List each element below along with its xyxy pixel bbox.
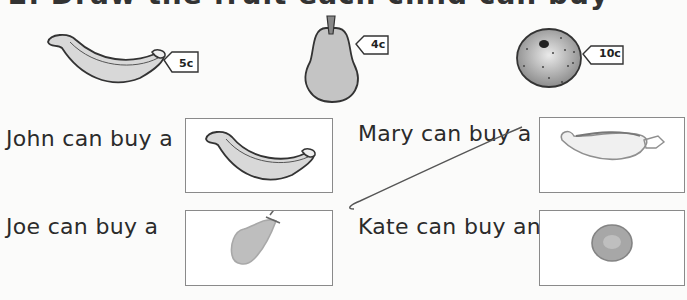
- pear-item: 4c: [300, 12, 390, 104]
- answer-box-kate[interactable]: [539, 210, 685, 286]
- answer-box-mary[interactable]: [539, 117, 685, 193]
- banana-answer-icon: [186, 119, 331, 191]
- banana-price-tag: 5c: [179, 57, 193, 70]
- question-kate: Kate can buy an: [358, 214, 541, 239]
- pencil-stroke-mark: [340, 125, 530, 215]
- answer-box-john[interactable]: [185, 118, 333, 193]
- pear-icon: [300, 12, 390, 104]
- banana-item: 5c: [40, 28, 210, 88]
- orange-pencil-drawing: [540, 211, 683, 284]
- question-john: John can buy a: [6, 126, 173, 151]
- answer-box-joe[interactable]: [185, 210, 333, 286]
- orange-item: 10c: [515, 26, 635, 91]
- pear-pencil-drawing: [186, 211, 331, 284]
- question-joe: Joe can buy a: [6, 214, 158, 239]
- orange-price-tag: 10c: [599, 47, 621, 60]
- pear-price-tag: 4c: [371, 38, 385, 51]
- worksheet-heading: 2. Draw the fruit each child can buy: [8, 0, 609, 11]
- banana-pencil-drawing: [540, 118, 683, 191]
